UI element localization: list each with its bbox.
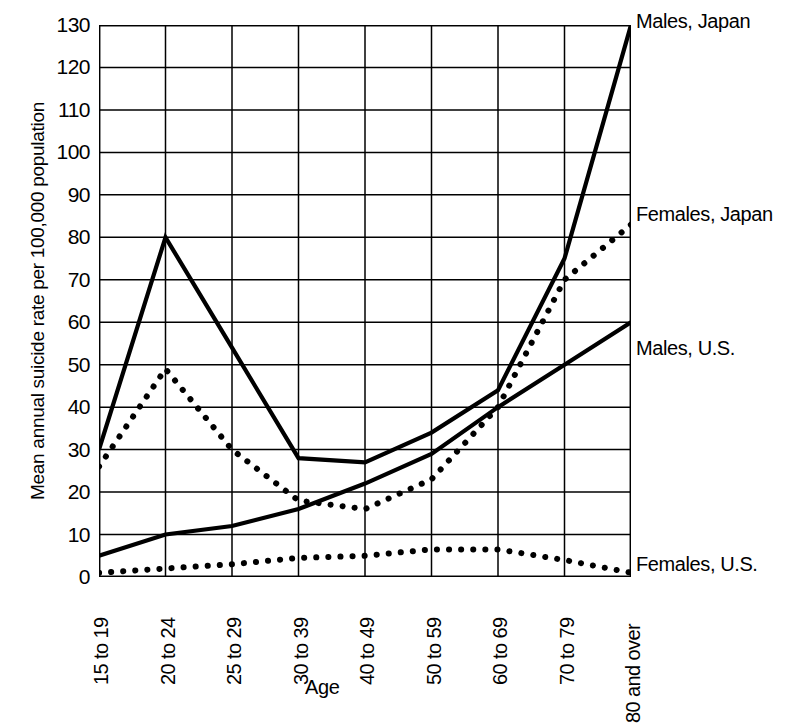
y-tick-label: 30	[34, 439, 90, 460]
series-label-males-japan: Males, Japan	[636, 10, 750, 32]
y-tick-label: 90	[34, 184, 90, 205]
x-tick-label: 80 and over	[623, 624, 643, 723]
x-tick-label: 25 to 29	[224, 618, 244, 686]
y-tick-label: 110	[34, 99, 90, 120]
y-tick-label: 0	[34, 566, 90, 587]
y-tick-label: 60	[34, 311, 90, 332]
x-axis-title: Age	[305, 676, 340, 698]
x-axis-tick-labels: 15 to 1920 to 2425 to 2930 to 3940 to 49…	[0, 585, 810, 728]
plot-area	[99, 25, 631, 577]
y-tick-label: 20	[34, 481, 90, 502]
x-tick-label: 20 to 24	[158, 618, 178, 686]
y-tick-label: 10	[34, 524, 90, 545]
series-label-females-japan: Females, Japan	[636, 203, 773, 225]
y-tick-label: 120	[34, 56, 90, 77]
x-tick-label: 60 to 69	[490, 618, 510, 686]
chart-figure: Mean annual suicide rate per 100,000 pop…	[0, 0, 810, 728]
y-tick-label: 80	[34, 226, 90, 247]
chart-canvas	[99, 25, 631, 577]
y-tick-label: 100	[34, 141, 90, 162]
series-label-females-us: Females, U.S.	[636, 553, 758, 575]
y-tick-label: 50	[34, 354, 90, 375]
x-tick-label: 30 to 39	[291, 618, 311, 686]
y-tick-label: 130	[34, 14, 90, 35]
y-tick-label: 70	[34, 269, 90, 290]
x-tick-label: 50 to 59	[424, 618, 444, 686]
x-tick-label: 70 to 79	[557, 618, 577, 686]
x-tick-label: 15 to 19	[91, 618, 111, 686]
x-tick-label: 40 to 49	[357, 618, 377, 686]
grid-lines	[99, 25, 631, 577]
y-tick-label: 40	[34, 396, 90, 417]
series-label-males-us: Males, U.S.	[636, 337, 735, 359]
